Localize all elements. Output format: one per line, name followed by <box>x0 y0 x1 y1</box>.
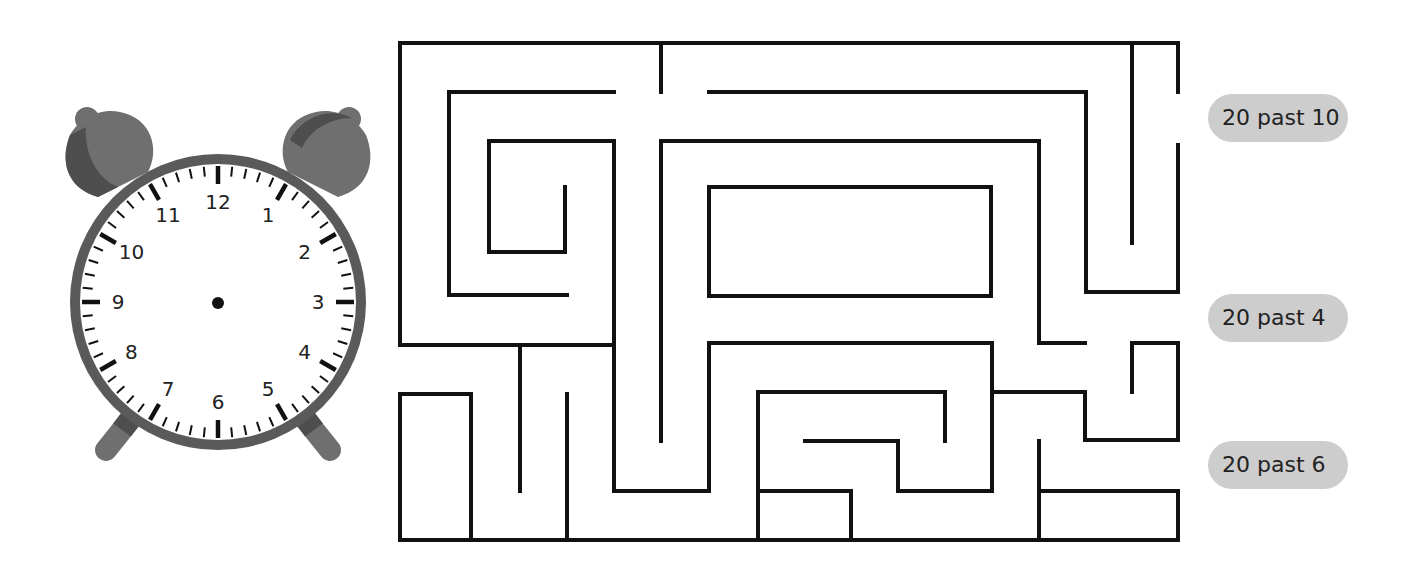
maze-walls <box>400 43 1178 540</box>
time-label-20-past-4[interactable]: 20 past 4 <box>1208 294 1348 342</box>
maze <box>0 0 1417 571</box>
time-label-20-past-6[interactable]: 20 past 6 <box>1208 441 1348 489</box>
time-label-20-past-10[interactable]: 20 past 10 <box>1208 94 1348 142</box>
